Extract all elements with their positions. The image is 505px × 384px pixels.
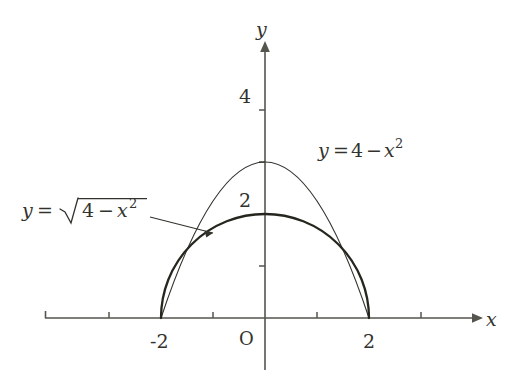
parabola-equation-label: y = 4 − x 2: [317, 136, 403, 161]
parabola-label-minus: −: [366, 139, 382, 161]
parabola-label-y: y: [317, 139, 329, 161]
semicircle-label-x: x: [117, 199, 128, 221]
radical-sign-icon: [60, 198, 78, 223]
parabola-label-x: x: [384, 139, 395, 161]
math-figure-graph: x y -2 2 O 2 4 y = 4 − x 2 y = 4 − x 2: [0, 0, 505, 384]
x-axis-arrowhead: [472, 313, 483, 323]
x-tick-label-2: 2: [363, 330, 375, 352]
parabola-label-exponent: 2: [395, 136, 403, 151]
semicircle-label-minus: −: [98, 199, 114, 221]
semicircle-label-exponent: 2: [129, 196, 137, 211]
semicircle-label-y: y: [21, 199, 33, 221]
semicircle-label-four: 4: [82, 199, 94, 221]
origin-label: O: [239, 328, 254, 349]
y-tick-label-4: 4: [239, 85, 251, 107]
semicircle-label-equals: =: [37, 199, 53, 221]
y-axis-label: y: [255, 18, 267, 40]
y-axis-arrowhead: [260, 41, 270, 52]
parabola-label-four: 4: [351, 139, 363, 161]
semicircle-equation-label: y = 4 − x 2: [21, 196, 147, 223]
leader-line: [150, 217, 213, 233]
x-tick-label-minus2: -2: [150, 330, 169, 352]
x-axis-label: x: [486, 308, 497, 330]
y-tick-label-2: 2: [239, 189, 251, 211]
graph-canvas: x y -2 2 O 2 4 y = 4 − x 2 y = 4 − x 2: [0, 0, 505, 384]
parabola-label-equals: =: [333, 139, 349, 161]
